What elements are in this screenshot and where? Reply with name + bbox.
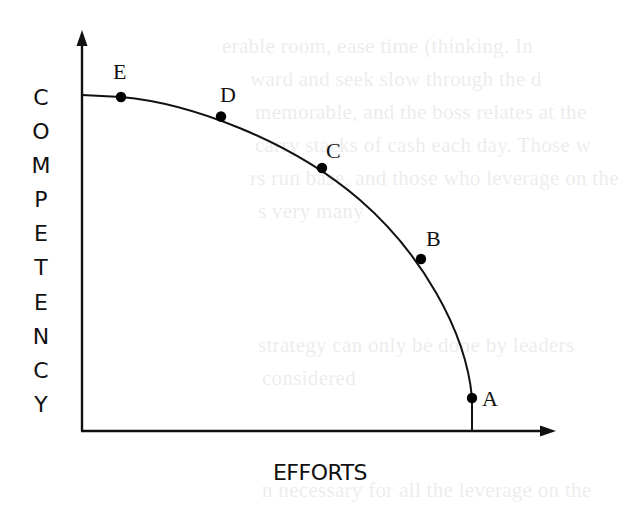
y-axis-label: C O M P E T E N C Y [28,86,54,427]
competency-curve [82,95,472,431]
point-b-label: B [426,228,441,250]
point-d-label: D [220,84,236,106]
y-axis-letter: C [33,359,48,393]
point-b-marker [416,254,426,264]
y-axis-letter: M [32,154,51,188]
point-e-marker [116,92,126,102]
y-axis-letter: C [33,86,48,120]
y-axis-letter: O [32,120,49,154]
y-axis-arrow-icon [77,30,88,46]
y-axis-letter: T [34,256,47,290]
x-axis-label: EFFORTS [262,460,378,485]
point-d-marker [216,111,226,121]
point-c-label: C [326,140,341,162]
y-axis-letter: E [34,222,48,256]
y-axis-letter: P [34,188,47,222]
y-axis-letter: N [33,325,49,359]
point-e-label: E [113,61,126,83]
x-axis-arrow-icon [540,426,556,437]
point-a-marker [467,393,477,403]
point-a-label: A [482,388,498,410]
y-axis-letter: Y [34,393,47,427]
y-axis-letter: E [34,291,48,325]
point-c-marker [317,163,327,173]
